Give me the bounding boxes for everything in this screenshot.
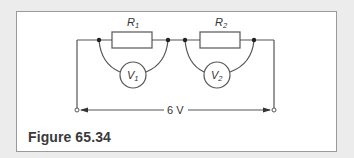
figure-caption: Figure 65.34 (28, 129, 111, 145)
junction-dot (166, 38, 170, 42)
junction-dot (252, 38, 256, 42)
supply-voltage-label: 6 V (167, 104, 184, 116)
resistor-r1 (112, 32, 152, 48)
terminal-right (272, 108, 276, 112)
junction-dot (97, 38, 101, 42)
r2-label: R2 (215, 16, 228, 30)
arrow-left-icon (80, 108, 88, 113)
terminal-left (75, 108, 79, 112)
junction-dot (183, 38, 187, 42)
arrow-right-icon (263, 108, 271, 113)
r1-label: R1 (127, 16, 139, 30)
resistor-r2 (200, 32, 240, 48)
